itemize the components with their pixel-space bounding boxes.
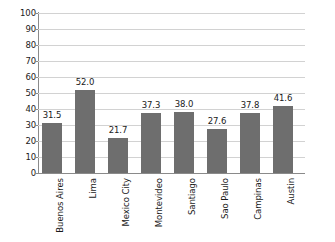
bar-value-label: 31.5 (35, 111, 69, 120)
x-axis-category-label: Campinas (254, 178, 263, 220)
gridline (38, 45, 305, 46)
gridline (38, 29, 305, 30)
y-axis-tick-label: 0 (2, 169, 36, 178)
y-axis-ticks: 1009080706050403020100 (0, 0, 36, 242)
bar (42, 123, 62, 173)
y-axis-tick-label: 30 (2, 121, 36, 130)
bar (75, 90, 95, 173)
y-axis-tick-label: 60 (2, 73, 36, 82)
x-axis-category-label: Montevideo (155, 178, 164, 227)
bar (141, 113, 161, 173)
bar-value-label: 21.7 (101, 126, 135, 135)
plot-area: 31.552.021.737.338.027.637.841.6 (38, 13, 305, 173)
x-axis-category-label: Santiago (188, 178, 197, 215)
y-axis-tick-label: 80 (2, 41, 36, 50)
bar-value-label: 41.6 (266, 94, 300, 103)
y-axis-tick-label: 20 (2, 137, 36, 146)
y-axis-tick-label: 10 (2, 153, 36, 162)
y-axis-tick-label: 100 (2, 9, 36, 18)
bar (207, 129, 227, 173)
x-axis-category-label: Sao Paulo (221, 178, 230, 219)
bar-chart: 1009080706050403020100 31.552.021.737.33… (0, 0, 335, 242)
x-axis-category-label: Austin (287, 178, 296, 204)
gridline (38, 61, 305, 62)
x-axis-category-label: Mexico City (122, 178, 131, 227)
bar-value-label: 37.3 (134, 101, 168, 110)
y-axis-tick-label: 90 (2, 25, 36, 34)
bar-value-label: 37.8 (233, 101, 267, 110)
bar-value-label: 38.0 (167, 100, 201, 109)
y-axis-tick-label: 50 (2, 89, 36, 98)
x-axis-baseline (38, 173, 305, 174)
y-axis-tick-label: 70 (2, 57, 36, 66)
bar-value-label: 27.6 (200, 117, 234, 126)
bar (108, 138, 128, 173)
gridline (38, 13, 305, 14)
bar (240, 113, 260, 173)
bar (174, 112, 194, 173)
bar (273, 106, 293, 173)
y-axis-tick-label: 40 (2, 105, 36, 114)
bar-value-label: 52.0 (68, 78, 102, 87)
x-axis-category-label: Lima (89, 178, 98, 198)
x-axis-category-label: Buenos Aires (56, 178, 65, 233)
